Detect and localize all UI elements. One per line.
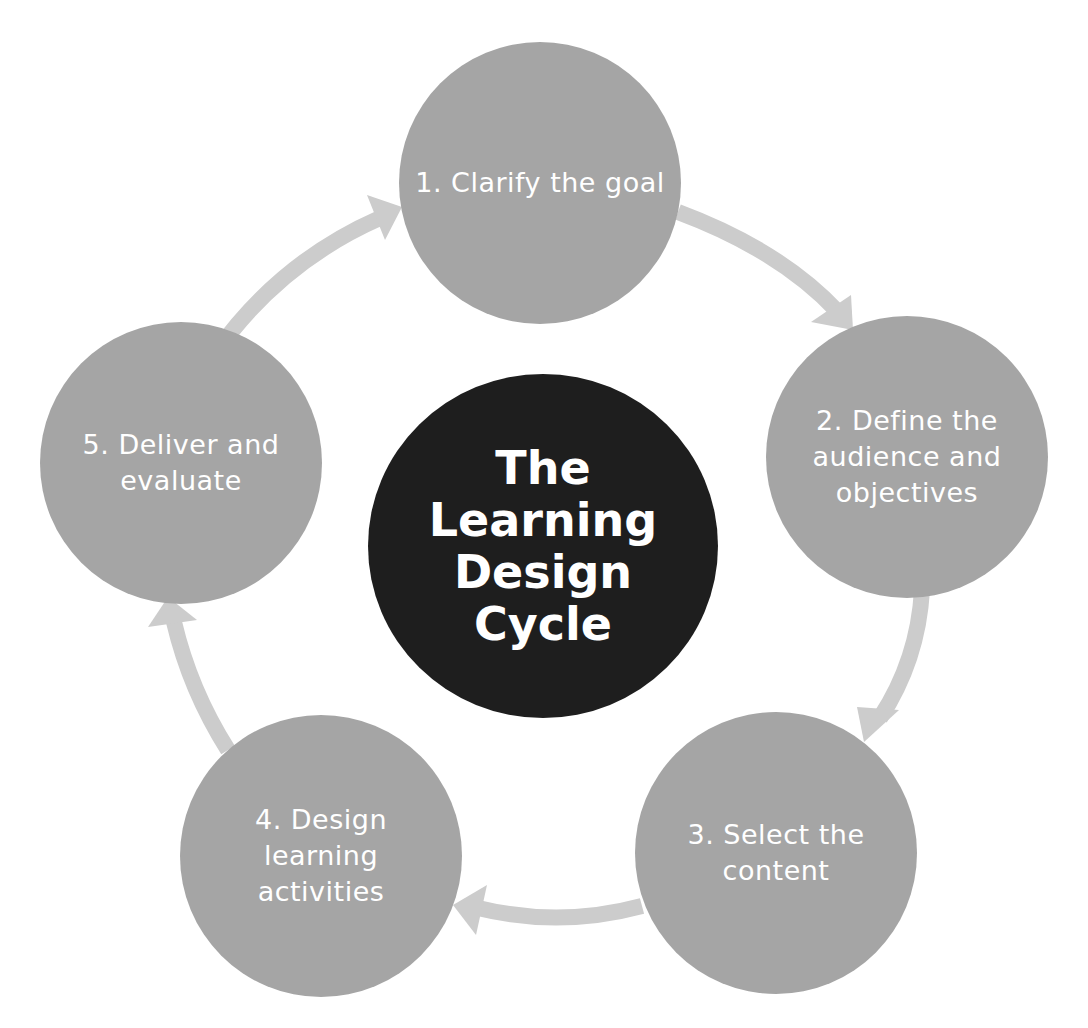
arrowhead-2-to-3	[857, 707, 899, 742]
arrow-1-to-2	[678, 212, 838, 312]
step-2-label: 2. Define the audience and objectives	[766, 403, 1048, 511]
center-title-circle: The Learning Design Cycle	[368, 374, 718, 718]
step-1-label: 1. Clarify the goal	[399, 165, 681, 201]
step-5-label: 5. Deliver and evaluate	[40, 427, 322, 499]
step-4-circle: 4. Design learning activities	[180, 715, 462, 997]
arrow-2-to-3	[880, 590, 922, 718]
step-1-circle: 1. Clarify the goal	[399, 42, 681, 324]
step-5-circle: 5. Deliver and evaluate	[40, 322, 322, 604]
arrow-5-to-1	[216, 218, 380, 352]
step-3-label: 3. Select the content	[635, 817, 917, 889]
step-4-label: 4. Design learning activities	[180, 802, 462, 910]
step-3-circle: 3. Select the content	[635, 712, 917, 994]
step-2-circle: 2. Define the audience and objectives	[766, 316, 1048, 598]
diagram-title: The Learning Design Cycle	[423, 442, 663, 650]
arrow-4-to-5	[174, 622, 228, 750]
arrow-3-to-4	[478, 906, 642, 918]
learning-design-cycle-diagram: 1. Clarify the goal 2. Define the audien…	[0, 0, 1088, 1028]
